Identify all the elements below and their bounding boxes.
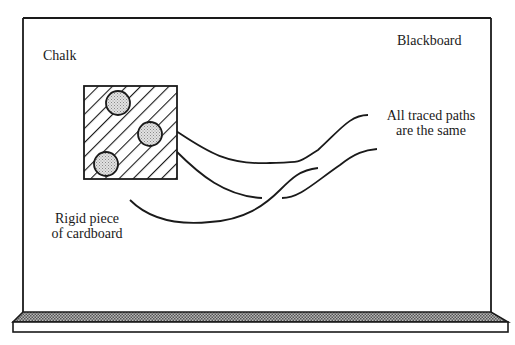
chalk-3 <box>94 152 118 176</box>
blackboard-label: Blackboard <box>397 33 462 48</box>
chalk-label: Chalk <box>43 48 76 63</box>
traced-paths-label-line1: All traced paths <box>387 108 476 123</box>
blackboard-diagram: Chalk Blackboard All traced paths are th… <box>0 0 515 345</box>
traced-paths-label-line2: are the same <box>396 123 466 138</box>
chalk-1 <box>106 91 130 115</box>
chalk-tray <box>13 312 508 332</box>
traced-path-2 <box>176 149 377 198</box>
chalk-2 <box>138 122 162 146</box>
cardboard-label-line2: of cardboard <box>51 226 122 241</box>
traced-path-1 <box>176 115 368 163</box>
cardboard <box>84 86 177 179</box>
cardboard-label-line1: Rigid piece <box>55 211 119 226</box>
